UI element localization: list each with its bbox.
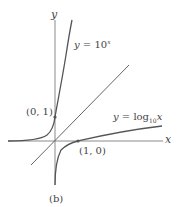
point-label-0-1: (0, 1): [26, 107, 53, 117]
exponential-curve: [8, 20, 72, 141]
point-1-0: [76, 139, 79, 142]
point-label-1-0: (1, 0): [79, 146, 106, 156]
point-0-1: [53, 115, 56, 118]
logarithm-curve: [55, 126, 162, 185]
exponential-label: yy = 10 = 10x: [74, 39, 111, 50]
logarithm-label: y = log10x: [113, 112, 162, 124]
x-axis-label: x: [165, 134, 171, 145]
figure-caption: (b): [49, 194, 63, 204]
y-axis-label: y: [51, 9, 57, 20]
graph-canvas: [0, 0, 178, 207]
